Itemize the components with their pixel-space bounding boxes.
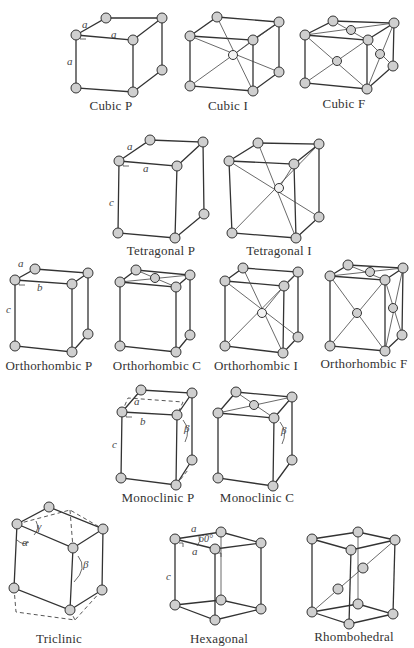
param-label: β [184, 422, 189, 434]
orthorhombic-p-cell [10, 264, 93, 357]
caption-tetragonal-p: Tetragonal P [127, 243, 195, 259]
param-label: b [37, 281, 43, 293]
caption-orthorhombic-c: Orthorhombic C [113, 358, 201, 374]
param-label: a [82, 18, 88, 30]
param-label: a [143, 162, 149, 174]
param-label: c [109, 196, 114, 208]
caption-tetragonal-i: Tetragonal I [246, 243, 311, 259]
param-label: c [6, 303, 11, 315]
orthorhombic-i-cell [220, 263, 303, 358]
param-label: β [281, 424, 286, 436]
caption-cubic-f: Cubic F [323, 96, 366, 112]
triclinic-cell [9, 502, 108, 620]
caption-rhombohedral: Rhombohedral [314, 629, 394, 645]
param-label: b [140, 415, 146, 427]
caption-monoclinic-p: Monoclinic P [122, 490, 195, 506]
cubic-i-cell [185, 12, 284, 96]
param-label: a [127, 140, 133, 152]
caption-orthorhombic-i: Orthorhombic I [214, 358, 298, 374]
caption-monoclinic-c: Monoclinic C [220, 490, 294, 506]
caption-triclinic: Triclinic [36, 631, 82, 647]
param-label: a [111, 28, 117, 40]
caption-cubic-i: Cubic I [208, 98, 248, 114]
param-label: a [191, 522, 197, 534]
param-label: 60° [199, 533, 213, 544]
param-label: α [22, 536, 28, 548]
orthorhombic-c-cell [115, 265, 195, 357]
monoclinic-c-cell [213, 387, 297, 491]
caption-orthorhombic-p: Orthorhombic P [6, 358, 93, 374]
orthorhombic-f-cell [325, 260, 408, 356]
param-label: a [192, 545, 198, 557]
param-label: a [67, 55, 73, 67]
caption-orthorhombic-f: Orthorhombic F [321, 356, 408, 372]
param-label: γ [37, 520, 41, 532]
param-label: c [166, 570, 171, 582]
caption-cubic-p: Cubic P [90, 98, 133, 114]
monoclinic-p-cell [116, 385, 197, 490]
hexagonal-cell [170, 527, 266, 625]
rhombohedral-cell [307, 527, 400, 629]
tetragonal-i-cell [224, 138, 324, 243]
param-label: a [18, 257, 24, 269]
cubic-f-cell [300, 16, 399, 94]
caption-hexagonal: Hexagonal [190, 631, 248, 647]
param-label: β [83, 558, 88, 570]
param-label: a [134, 395, 140, 407]
param-label: c [112, 438, 117, 450]
